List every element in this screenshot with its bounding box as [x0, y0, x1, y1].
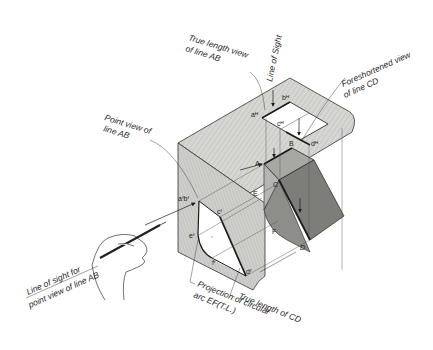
point-af-bf: aᶠbᶠ	[178, 195, 189, 202]
point-ff: fᶠ	[212, 259, 216, 266]
label-line-of-sight: Line of Sight	[264, 33, 284, 82]
hand-with-pencil-icon	[92, 222, 166, 300]
projection-diagram: True length view of line AB Line of Sigh…	[0, 0, 433, 350]
point-ef: eᶠ	[189, 232, 195, 239]
point-df: dᶠ	[246, 268, 252, 275]
point-a: A	[255, 160, 260, 167]
solid-object	[264, 148, 344, 252]
point-bh: bᴴ	[282, 94, 289, 101]
point-f: F	[272, 228, 276, 235]
point-ch: cᴴ	[277, 120, 284, 127]
point-e: E	[253, 190, 258, 197]
point-c: C	[273, 181, 278, 188]
point-ah: aᴴ	[251, 111, 258, 118]
svg-text:Line of Sight: Line of Sight	[264, 33, 284, 82]
point-b: B	[289, 140, 294, 147]
point-d: D	[300, 244, 305, 251]
point-cf: cᶠ	[217, 208, 223, 215]
point-dh: dᴴ	[311, 140, 318, 147]
